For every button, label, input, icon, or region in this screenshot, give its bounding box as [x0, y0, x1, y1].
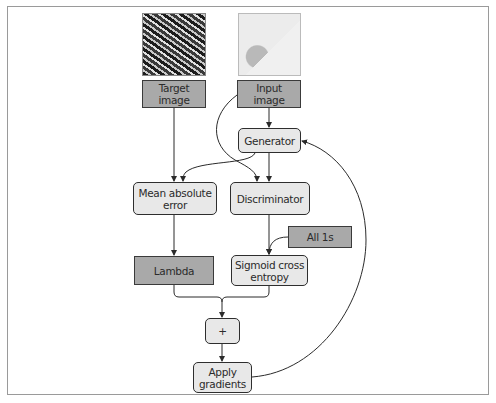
input-image-thumbnail — [238, 13, 301, 76]
label: Generator — [244, 135, 295, 147]
node-all-ones: All 1s — [288, 226, 352, 248]
label: image — [253, 94, 284, 106]
node-discriminator: Discriminator — [230, 182, 310, 215]
edge-lambda-to-plus — [174, 285, 222, 317]
node-plus: + — [205, 318, 240, 344]
label: Apply — [208, 366, 236, 378]
label: entropy — [250, 271, 289, 283]
label: Sigmoid cross — [235, 259, 304, 271]
target-image-thumbnail — [142, 13, 206, 76]
label: Lambda — [154, 265, 194, 277]
node-input-image: Inputimage — [237, 80, 301, 108]
label: error — [163, 199, 187, 211]
node-sigmoid-cross-entropy: Sigmoid crossentropy — [231, 255, 308, 286]
label: Discriminator — [237, 193, 304, 205]
label: gradients — [199, 378, 246, 390]
label: image — [158, 94, 189, 106]
node-apply-gradients: Applygradients — [193, 362, 252, 393]
label: + — [218, 325, 227, 337]
node-lambda: Lambda — [134, 256, 214, 285]
edge-allones-to-sigmoid — [269, 237, 288, 254]
node-mean-absolute-error: Mean absoluteerror — [133, 182, 217, 215]
edge-sigmoid-to-plus — [222, 286, 269, 302]
node-target-image: Targetimage — [142, 80, 206, 108]
label: All 1s — [307, 231, 334, 243]
node-generator: Generator — [238, 128, 301, 153]
label: Mean absolute — [138, 187, 211, 199]
label: Target — [159, 82, 190, 94]
label: Input — [256, 82, 282, 94]
edge-generator-to-mae — [183, 153, 255, 181]
